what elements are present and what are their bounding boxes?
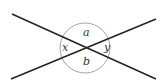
label-y: y xyxy=(103,41,111,54)
label-b: b xyxy=(83,55,90,68)
label-a: a xyxy=(83,26,90,39)
label-x: x xyxy=(62,41,69,54)
angle-diagram: a b x y xyxy=(0,0,161,81)
